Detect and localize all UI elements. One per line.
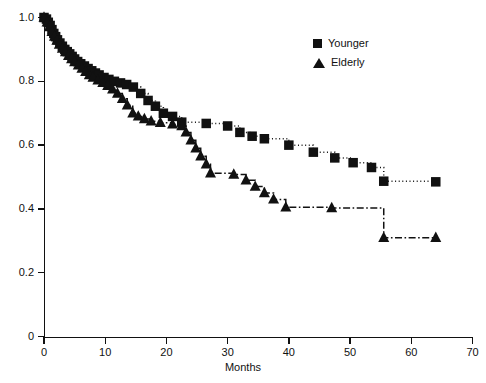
data-point-marker: [378, 231, 389, 241]
series-line-younger: [44, 18, 436, 182]
legend-item-younger: Younger: [313, 38, 369, 49]
data-point-marker: [260, 134, 270, 144]
data-point-marker: [280, 201, 291, 211]
data-point-marker: [259, 187, 270, 197]
data-point-marker: [159, 108, 169, 118]
legend-label-elderly: Elderly: [331, 57, 365, 68]
data-point-marker: [284, 140, 294, 150]
data-point-marker: [268, 193, 279, 203]
data-point-marker: [326, 202, 337, 212]
triangle-marker-icon: [313, 58, 325, 68]
data-point-marker: [348, 158, 358, 168]
square-marker-icon: [313, 39, 322, 48]
plot-area: [0, 0, 486, 383]
legend-item-elderly: Elderly: [313, 57, 365, 68]
data-point-marker: [309, 147, 319, 157]
data-point-marker: [235, 128, 245, 138]
data-point-marker: [431, 177, 441, 187]
data-point-marker: [155, 117, 166, 127]
data-point-marker: [367, 163, 377, 173]
x-axis-title: Months: [0, 361, 486, 373]
data-point-marker: [247, 131, 257, 141]
data-point-marker: [241, 174, 252, 184]
legend-label-younger: Younger: [328, 38, 369, 49]
data-point-marker: [430, 231, 441, 241]
data-point-marker: [330, 153, 340, 163]
series-line-elderly: [44, 18, 436, 238]
data-point-marker: [205, 167, 216, 177]
series-markers-younger: [39, 13, 440, 187]
data-point-marker: [201, 119, 211, 128]
data-point-marker: [223, 121, 233, 131]
data-point-marker: [379, 176, 389, 186]
kaplan-meier-chart: 00.20.40.60.81.0 010203040506070 Younger…: [0, 0, 486, 383]
data-point-marker: [250, 180, 261, 190]
